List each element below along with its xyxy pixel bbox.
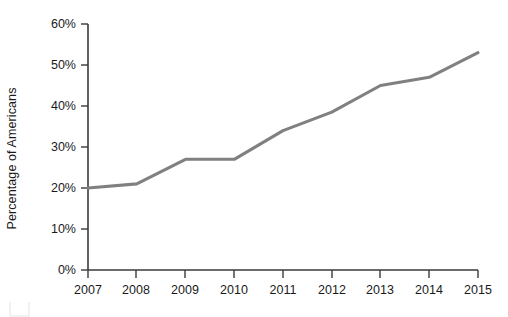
line-chart: Percentage of Americans 0% 10% 20% 30% 4…	[0, 0, 508, 317]
x-tick-label-2007: 2007	[74, 283, 102, 297]
y-tick-label-20: 20%	[51, 181, 76, 195]
x-tick-label-2012: 2012	[318, 283, 346, 297]
x-tick-label-2013: 2013	[366, 283, 394, 297]
y-tick-label-40: 40%	[51, 99, 76, 113]
y-tick-label-30: 30%	[51, 140, 76, 154]
corner-artifact	[9, 302, 30, 317]
x-tick-label-2008: 2008	[122, 283, 150, 297]
y-tick-label-50: 50%	[51, 58, 76, 72]
x-tick-label-2014: 2014	[415, 283, 443, 297]
x-tick-label-2015: 2015	[464, 283, 492, 297]
plot-area: 0% 10% 20% 30% 40% 50% 60% 2007 2008 200…	[0, 0, 508, 317]
y-tick-label-10: 10%	[51, 222, 76, 236]
y-tick-label-60: 60%	[51, 17, 76, 31]
x-tick-label-2011: 2011	[270, 283, 297, 297]
series-line-percentage-of-americans	[88, 53, 478, 188]
x-tick-label-2009: 2009	[171, 283, 199, 297]
x-tick-label-2010: 2010	[220, 283, 248, 297]
y-tick-label-0: 0%	[58, 263, 76, 277]
